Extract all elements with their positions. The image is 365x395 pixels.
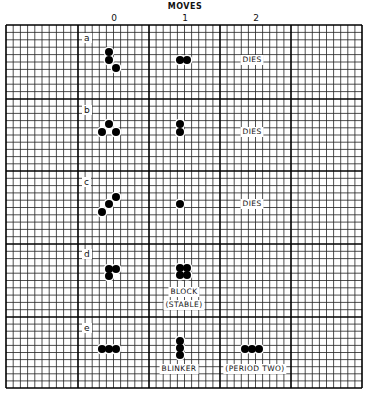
live-cell [176, 344, 184, 352]
live-cell [176, 200, 184, 208]
pattern-label-b: b [82, 105, 92, 115]
live-cell [176, 351, 184, 359]
live-cell [176, 271, 184, 279]
live-cell [112, 64, 120, 72]
live-cell [241, 345, 249, 353]
live-cell [98, 128, 106, 136]
live-cell [176, 128, 184, 136]
live-cell [112, 265, 120, 273]
live-cell [176, 337, 184, 345]
annotation-stable: (STABLE) [163, 300, 204, 310]
live-cell [176, 264, 184, 272]
live-cell [98, 345, 106, 353]
annotation-dies: DIES [240, 55, 263, 65]
live-cell [176, 56, 184, 64]
live-cell [112, 128, 120, 136]
live-cell [112, 345, 120, 353]
live-cell [248, 345, 256, 353]
live-cell [183, 264, 191, 272]
live-cell [105, 120, 113, 128]
live-cell [105, 200, 113, 208]
live-cell [176, 120, 184, 128]
annotation-period-two: (PERIOD TWO) [223, 364, 286, 374]
pattern-label-e: e [82, 323, 92, 333]
live-cell [105, 56, 113, 64]
live-cell [112, 193, 120, 201]
live-cell [98, 208, 106, 216]
pattern-label-c: c [82, 177, 91, 187]
annotation-blinker: BLINKER [160, 364, 199, 374]
annotation-block: BLOCK [168, 287, 199, 297]
live-cell [105, 48, 113, 56]
pattern-label-a: a [82, 33, 92, 43]
live-cell [105, 345, 113, 353]
live-cell [183, 271, 191, 279]
annotation-dies: DIES [240, 199, 263, 209]
live-cell [105, 265, 113, 273]
pattern-label-d: d [82, 249, 92, 259]
live-cell [105, 272, 113, 280]
life-grid [0, 0, 365, 395]
annotation-dies: DIES [240, 127, 263, 137]
live-cell [183, 56, 191, 64]
live-cell [255, 345, 263, 353]
